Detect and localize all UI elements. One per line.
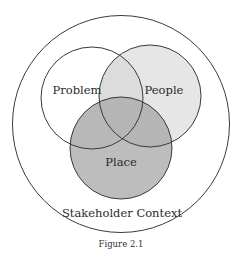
figure-caption: Figure 2.1: [99, 239, 144, 249]
people-label: People: [145, 83, 184, 97]
stakeholder-context-label: Stakeholder Context: [62, 206, 182, 220]
place-label: Place: [105, 155, 137, 169]
problem-label: Problem: [53, 83, 102, 97]
venn-diagram: Problem People Place Stakeholder Context…: [0, 0, 242, 262]
figure-canvas: Problem People Place Stakeholder Context…: [0, 0, 242, 262]
